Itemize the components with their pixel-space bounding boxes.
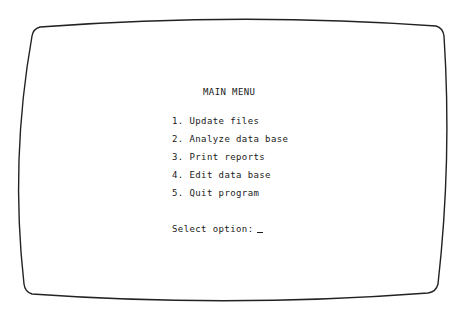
menu-item-number: 3. xyxy=(172,152,184,162)
menu-item-label: Quit program xyxy=(189,188,259,198)
menu-item-label: Print reports xyxy=(189,152,265,162)
prompt-label: Select option: xyxy=(172,224,253,234)
menu-item-edit-data-base[interactable]: 4. Edit data base xyxy=(172,170,271,180)
menu-item-quit-program[interactable]: 5. Quit program xyxy=(172,188,259,198)
menu-item-number: 5. xyxy=(172,188,184,198)
menu-item-label: Analyze data base xyxy=(189,134,288,144)
text-cursor xyxy=(257,224,263,233)
menu-item-analyze-data-base[interactable]: 2. Analyze data base xyxy=(172,134,288,144)
menu-item-label: Update files xyxy=(189,116,259,126)
menu-item-update-files[interactable]: 1. Update files xyxy=(172,116,259,126)
menu-item-number: 1. xyxy=(172,116,184,126)
select-option-prompt[interactable]: Select option: xyxy=(172,224,263,234)
menu-item-label: Edit data base xyxy=(189,170,270,180)
menu-item-number: 2. xyxy=(172,134,184,144)
menu-title: MAIN MENU xyxy=(203,87,255,97)
menu-item-print-reports[interactable]: 3. Print reports xyxy=(172,152,265,162)
menu-item-number: 4. xyxy=(172,170,184,180)
